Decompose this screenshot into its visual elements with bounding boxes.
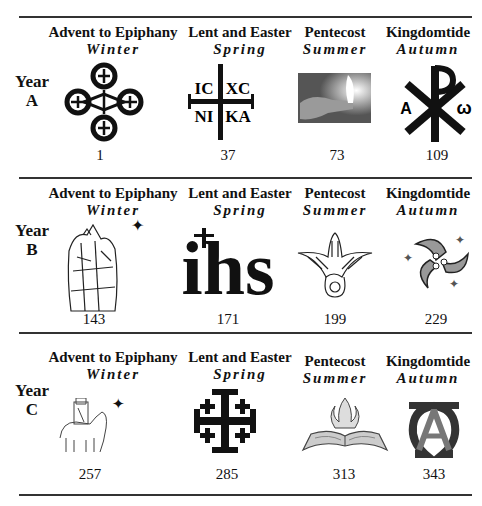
year-c-label: Year C xyxy=(10,381,54,419)
season-sub: Spring xyxy=(180,366,300,383)
magi-on-camel-icon xyxy=(56,398,112,454)
season-sub: Winter xyxy=(38,366,188,383)
season-header-spring: Lent and Easter Spring xyxy=(180,349,300,383)
alpha-omega-monogram-icon xyxy=(405,396,463,458)
jerusalem-cross-icon xyxy=(194,387,256,455)
page-number: 285 xyxy=(197,466,257,483)
page-number: 343 xyxy=(404,466,464,483)
season-name: Lent and Easter xyxy=(180,349,300,366)
season-name: Pentecost xyxy=(290,353,380,370)
season-header-winter: Advent to Epiphany Winter xyxy=(38,349,188,383)
year-letter: C xyxy=(10,400,54,419)
page-number: 313 xyxy=(314,466,374,483)
season-sub: Autumn xyxy=(378,370,478,387)
season-name: Advent to Epiphany xyxy=(38,349,188,366)
year-c-section: Year C Advent to Epiphany Winter Lent an… xyxy=(0,0,482,506)
open-bible-flame-icon xyxy=(301,394,389,456)
season-sub: Summer xyxy=(290,370,380,387)
year-word: Year xyxy=(10,381,54,400)
star-icon: ✦ xyxy=(112,395,125,413)
page-number: 257 xyxy=(60,466,120,483)
season-name: Kingdomtide xyxy=(378,353,478,370)
season-header-autumn: Kingdomtide Autumn xyxy=(378,353,478,387)
season-header-summer: Pentecost Summer xyxy=(290,353,380,387)
